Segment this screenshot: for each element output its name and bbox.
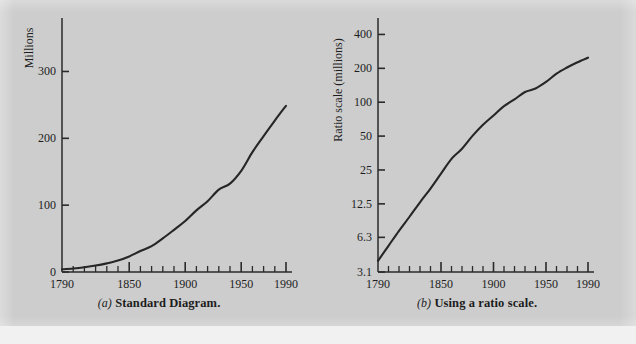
y-tick-label: 100 — [354, 95, 372, 109]
y-tick-label: 50 — [360, 129, 372, 143]
caption-a-text: Standard Diagram. — [115, 296, 220, 310]
x-tick-label: 1790 — [366, 277, 390, 291]
data-series-line — [378, 58, 588, 261]
x-tick-label: 1950 — [534, 277, 558, 291]
y-axis-title: Millions — [22, 27, 36, 68]
caption-b-label: (b) — [417, 296, 431, 310]
data-series-line — [62, 106, 286, 270]
panel-standard-diagram: 010020030017901850190019501990Millions (… — [0, 0, 318, 326]
x-tick-label: 1900 — [173, 277, 197, 291]
y-tick-label: 100 — [38, 198, 56, 212]
caption-panel-b: (b) Using a ratio scale. — [318, 296, 636, 311]
figure-page: 010020030017901850190019501990Millions (… — [0, 0, 636, 344]
y-tick-label: 6.3 — [357, 230, 372, 244]
caption-panel-a: (a) Standard Diagram. — [0, 296, 318, 311]
chart-ratio-scale: 3.16.312.5255010020040017901850190019501… — [318, 0, 636, 300]
x-tick-label: 1900 — [482, 277, 506, 291]
x-tick-label: 1850 — [429, 277, 453, 291]
chart-standard-diagram: 010020030017901850190019501990Millions — [0, 0, 318, 300]
x-tick-label: 1790 — [50, 277, 74, 291]
caption-a-label: (a) — [98, 296, 112, 310]
y-tick-label: 12.5 — [351, 197, 372, 211]
x-tick-label: 1990 — [274, 277, 298, 291]
y-tick-label: 25 — [360, 163, 372, 177]
page-bottom-strip — [0, 326, 636, 344]
y-axis-title: Ratio scale (millions) — [331, 38, 345, 141]
y-tick-label: 300 — [38, 64, 56, 78]
caption-b-text: Using a ratio scale. — [434, 296, 537, 310]
y-tick-label: 200 — [38, 131, 56, 145]
x-tick-label: 1990 — [576, 277, 600, 291]
x-tick-label: 1850 — [117, 277, 141, 291]
x-tick-label: 1950 — [229, 277, 253, 291]
y-tick-label: 200 — [354, 61, 372, 75]
y-tick-label: 400 — [354, 27, 372, 41]
panel-ratio-scale-diagram: 3.16.312.5255010020040017901850190019501… — [318, 0, 636, 326]
